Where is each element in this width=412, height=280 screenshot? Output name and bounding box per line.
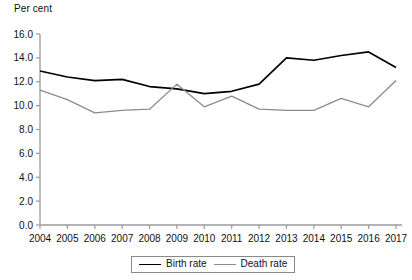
legend-swatch-death-rate: [214, 264, 236, 265]
legend-item-death-rate: Death rate: [214, 259, 288, 269]
x-tick-label: 2010: [193, 233, 216, 244]
x-tick-label: 2015: [330, 233, 353, 244]
x-tick-label: 2017: [385, 233, 408, 244]
y-tick-label: 10.0: [14, 100, 34, 111]
x-tick-label: 2008: [138, 233, 161, 244]
y-axis: 0.02.04.06.08.010.012.014.016.0: [14, 29, 40, 231]
x-tick-label: 2007: [111, 233, 134, 244]
y-tick-label: 6.0: [19, 148, 33, 159]
x-tick-label: 2006: [84, 233, 107, 244]
y-tick-label: 16.0: [14, 29, 34, 40]
x-tick-label: 2013: [275, 233, 298, 244]
y-tick-label: 4.0: [19, 172, 33, 183]
y-tick-label: 14.0: [14, 52, 34, 63]
x-tick-label: 2012: [248, 233, 271, 244]
series-line: [40, 81, 396, 113]
x-tick-label: 2011: [221, 233, 243, 244]
line-chart: Per cent 0.02.04.06.08.010.012.014.016.0…: [0, 0, 412, 280]
x-tick-label: 2004: [29, 233, 52, 244]
chart-plot-area: 0.02.04.06.08.010.012.014.016.0 20042005…: [0, 0, 412, 280]
x-tick-label: 2005: [56, 233, 79, 244]
y-tick-label: 8.0: [19, 124, 33, 135]
legend-label-birth-rate: Birth rate: [166, 259, 207, 269]
series-line: [40, 52, 396, 94]
x-tick-label: 2009: [166, 233, 189, 244]
y-tick-label: 2.0: [19, 196, 33, 207]
chart-legend: Birth rate Death rate: [131, 256, 295, 273]
x-tick-label: 2014: [303, 233, 326, 244]
legend-label-death-rate: Death rate: [241, 259, 288, 269]
legend-item-birth-rate: Birth rate: [139, 259, 207, 269]
y-tick-label: 0.0: [19, 220, 33, 231]
legend-swatch-birth-rate: [139, 264, 161, 265]
series-lines: [40, 52, 396, 113]
x-tick-label: 2016: [357, 233, 380, 244]
y-tick-label: 12.0: [14, 76, 34, 87]
x-axis: 2004200520062007200820092010201120122013…: [29, 225, 408, 244]
